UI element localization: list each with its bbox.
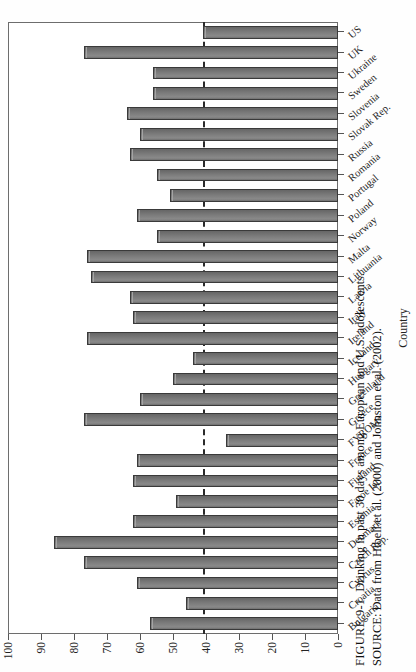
bar-group: Ukraine bbox=[8, 67, 338, 80]
y-axis-tick-label: 10 bbox=[299, 642, 311, 654]
x-axis-title: Country bbox=[396, 308, 411, 347]
bar bbox=[153, 67, 338, 80]
x-axis-tick bbox=[338, 480, 344, 481]
y-axis-tick-label: 60 bbox=[134, 642, 146, 654]
y-axis-tick-label: 20 bbox=[266, 642, 278, 654]
bar-group: Lithuania bbox=[8, 271, 338, 284]
bar bbox=[173, 373, 338, 386]
bar bbox=[137, 209, 338, 222]
bar bbox=[140, 393, 338, 406]
x-axis-tick bbox=[338, 72, 344, 73]
y-axis-tick-label: 90 bbox=[35, 642, 47, 654]
bar bbox=[176, 495, 338, 508]
bar bbox=[137, 454, 338, 467]
y-axis-tick bbox=[239, 634, 240, 640]
bar bbox=[87, 250, 338, 263]
y-axis-tick bbox=[8, 634, 9, 640]
bar-group: Latvia bbox=[8, 291, 338, 304]
bar bbox=[84, 413, 338, 426]
bar-group: Malta bbox=[8, 250, 338, 263]
y-axis-tick-label: 100 bbox=[2, 642, 14, 659]
bar bbox=[133, 515, 338, 528]
bar-group: Czech Rep. bbox=[8, 556, 338, 569]
bar bbox=[133, 311, 338, 324]
y-axis-tick bbox=[140, 634, 141, 640]
x-axis-tick bbox=[338, 276, 344, 277]
bar bbox=[137, 577, 338, 590]
y-axis-tick-label: 70 bbox=[101, 642, 113, 654]
x-axis-tick bbox=[338, 378, 344, 379]
x-axis-tick bbox=[338, 52, 344, 53]
bar-group: Faroe Isl. bbox=[8, 495, 338, 508]
y-axis-tick bbox=[173, 634, 174, 640]
bar-group: Estonia bbox=[8, 515, 338, 528]
x-axis-tick bbox=[338, 296, 344, 297]
bar-group: Ireland bbox=[8, 332, 338, 345]
x-axis-tick bbox=[338, 174, 344, 175]
y-axis-tick bbox=[41, 634, 42, 640]
y-axis-tick bbox=[74, 634, 75, 640]
bar-group: Finland bbox=[8, 475, 338, 488]
figure-caption-text: Drinking in past 30 days among European … bbox=[353, 273, 367, 592]
bar bbox=[84, 556, 338, 569]
y-axis-tick bbox=[206, 634, 207, 640]
bar-chart: 0102030405060708090100 Percent Country B… bbox=[8, 22, 338, 634]
y-axis-tick-label: 30 bbox=[233, 642, 245, 654]
figure-source: SOURCE: Data from Hibell et al. (2000) a… bbox=[369, 6, 385, 666]
bar bbox=[130, 148, 338, 161]
bar bbox=[133, 475, 338, 488]
y-axis-tick bbox=[305, 634, 306, 640]
y-axis-tick-label: 40 bbox=[200, 642, 212, 654]
x-axis-tick bbox=[338, 358, 344, 359]
x-axis-tick bbox=[338, 602, 344, 603]
x-axis-tick bbox=[338, 215, 344, 216]
x-axis-tick bbox=[338, 337, 344, 338]
bar-group: Croatia bbox=[8, 597, 338, 610]
bar bbox=[87, 332, 338, 345]
bar-group: Italy bbox=[8, 311, 338, 324]
rotated-figure-canvas: 0102030405060708090100 Percent Country B… bbox=[0, 0, 416, 672]
bar-group: France bbox=[8, 454, 338, 467]
bar-group: Cyprus bbox=[8, 577, 338, 590]
x-axis-tick bbox=[338, 541, 344, 542]
x-axis-tick bbox=[338, 194, 344, 195]
bar bbox=[170, 189, 338, 202]
x-axis-tick bbox=[338, 31, 344, 32]
bar bbox=[54, 536, 338, 549]
figure-caption: FIGURE 9-1Drinking in past 30 days among… bbox=[352, 6, 385, 666]
bar-group: Russia bbox=[8, 148, 338, 161]
bar bbox=[84, 46, 338, 59]
x-axis-tick bbox=[338, 521, 344, 522]
bar-group: Romania bbox=[8, 169, 338, 182]
bar bbox=[157, 230, 339, 243]
x-axis-tick bbox=[338, 398, 344, 399]
x-axis-tick bbox=[338, 439, 344, 440]
x-axis-tick bbox=[338, 582, 344, 583]
bar-group: Iceland bbox=[8, 352, 338, 365]
y-axis-tick bbox=[107, 634, 108, 640]
y-axis-tick bbox=[338, 634, 339, 640]
bar bbox=[193, 352, 338, 365]
bar bbox=[130, 291, 338, 304]
bar-group: FYROM* bbox=[8, 434, 338, 447]
bar bbox=[153, 87, 338, 100]
bar bbox=[226, 434, 338, 447]
x-axis-tick bbox=[338, 623, 344, 624]
bar-group: Denmark bbox=[8, 536, 338, 549]
bar-group: Poland bbox=[8, 209, 338, 222]
bar-group: Portugal bbox=[8, 189, 338, 202]
bar bbox=[91, 271, 339, 284]
figure-number: FIGURE 9-1 bbox=[353, 599, 367, 666]
bar bbox=[186, 597, 338, 610]
y-axis-tick-label: 80 bbox=[68, 642, 80, 654]
x-axis-tick bbox=[338, 317, 344, 318]
x-axis-tick bbox=[338, 92, 344, 93]
x-axis-tick bbox=[338, 500, 344, 501]
bar bbox=[127, 107, 338, 120]
x-axis-tick bbox=[338, 419, 344, 420]
x-axis-tick bbox=[338, 154, 344, 155]
x-axis-tick bbox=[338, 113, 344, 114]
x-axis-tick bbox=[338, 235, 344, 236]
bar-group: Sweden bbox=[8, 87, 338, 100]
x-axis-tick bbox=[338, 562, 344, 563]
